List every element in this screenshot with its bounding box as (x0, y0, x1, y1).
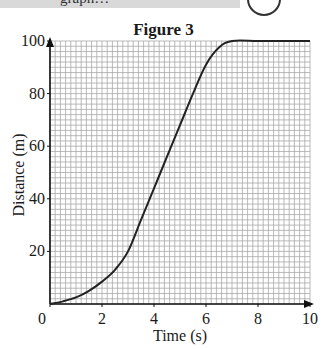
x-tick-label: 8 (254, 310, 262, 327)
y-tick-label: 80 (29, 85, 45, 102)
grid-lines (50, 41, 310, 304)
y-tick-label: 100 (21, 32, 45, 49)
y-axis-arrow-icon (46, 37, 54, 47)
x-tick-label: 0 (38, 310, 46, 327)
x-tick-label: 10 (302, 310, 318, 327)
y-tick-label: 40 (29, 190, 45, 207)
chart-plot: 024681020406080100 Time (s) Distance (m) (0, 0, 327, 349)
x-tick-label: 4 (150, 310, 158, 327)
x-axis-label: Time (s) (153, 327, 207, 345)
y-axis-label: Distance (m) (10, 133, 28, 216)
y-tick-label: 60 (29, 137, 45, 154)
x-tick-label: 6 (202, 310, 210, 327)
y-tick-label: 20 (29, 242, 45, 259)
x-tick-label: 2 (98, 310, 106, 327)
x-axis-arrow-icon (304, 300, 314, 308)
